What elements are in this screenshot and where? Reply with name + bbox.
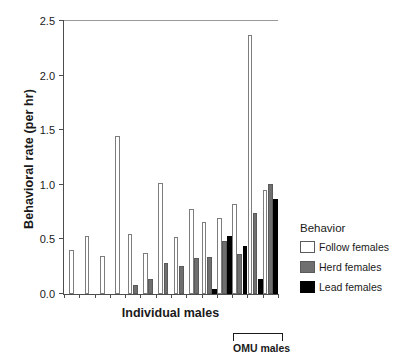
bar-herd-male-14: [268, 184, 273, 294]
bracket-line: [233, 333, 283, 341]
x-axis-tick: [79, 294, 80, 298]
bar-herd-male-13: [253, 213, 258, 294]
legend-item-follow-females[interactable]: Follow females: [300, 241, 400, 253]
x-axis-tick: [217, 294, 218, 298]
bar-follow-male-5: [128, 234, 133, 294]
bar-follow-male-7: [158, 183, 163, 294]
y-axis-tick-label: 2.0: [40, 70, 55, 82]
bar-series-layer: [64, 21, 278, 294]
bar-herd-male-10: [207, 257, 212, 294]
x-axis-tick: [110, 294, 111, 298]
bar-follow-male-2: [85, 236, 90, 294]
bar-follow-male-6: [143, 253, 148, 294]
y-axis-tick-label: 1.0: [40, 179, 55, 191]
bar-herd-male-12: [237, 254, 242, 294]
bar-herd-male-9: [194, 258, 199, 294]
bar-herd-male-7: [164, 263, 169, 294]
x-axis-tick: [186, 294, 187, 298]
gray-square-icon: [300, 261, 315, 273]
bar-lead-male-12: [243, 246, 248, 294]
x-axis-tick: [95, 294, 96, 298]
white-square-icon: [300, 241, 315, 253]
x-axis-tick: [202, 294, 203, 298]
bar-herd-male-11: [222, 241, 227, 295]
x-axis-tick: [263, 294, 264, 298]
legend-item-herd-females[interactable]: Herd females: [300, 261, 400, 273]
x-axis-tick: [64, 294, 65, 298]
bar-follow-male-10: [202, 222, 207, 294]
y-axis-title: Behavioral rate (per hr): [22, 34, 36, 284]
black-square-icon: [300, 281, 315, 293]
legend-label-follow-females: Follow females: [319, 241, 389, 253]
behavioral-rate-bar-chart: Behavioral rate (per hr) 0.00.51.01.52.0…: [0, 0, 403, 364]
legend: Behavior Follow females Herd females Lea…: [300, 222, 400, 301]
legend-item-lead-females[interactable]: Lead females: [300, 281, 400, 293]
legend-label-lead-females: Lead females: [319, 281, 382, 293]
bar-follow-male-12: [232, 204, 237, 294]
x-axis-tick: [125, 294, 126, 298]
x-axis-tick: [232, 294, 233, 298]
bar-follow-male-9: [189, 209, 194, 294]
bar-lead-male-14: [273, 199, 278, 294]
bar-follow-male-1: [69, 250, 74, 294]
y-axis-tick-label: 2.5: [40, 15, 55, 27]
bar-herd-male-8: [179, 266, 184, 294]
x-axis-tick: [171, 294, 172, 298]
omu-males-bracket: OMU males: [233, 330, 283, 354]
bar-follow-male-14: [263, 190, 268, 294]
x-axis-title: Individual males: [63, 306, 278, 320]
bar-herd-male-5: [133, 285, 138, 294]
legend-title: Behavior: [300, 222, 400, 234]
bracket-label: OMU males: [233, 342, 283, 354]
bar-herd-male-6: [148, 279, 153, 294]
x-axis-tick: [278, 294, 279, 298]
y-axis-tick-label: 0.0: [40, 288, 55, 300]
legend-label-herd-females: Herd females: [319, 261, 381, 273]
bar-follow-male-8: [174, 237, 179, 294]
bar-follow-male-3: [100, 256, 105, 294]
bar-follow-male-13: [248, 35, 253, 294]
x-axis-tick: [140, 294, 141, 298]
y-axis-tick-label: 1.5: [40, 124, 55, 136]
x-axis-tick: [247, 294, 248, 298]
x-axis-tick: [156, 294, 157, 298]
plot-area: 0.00.51.01.52.02.5: [63, 20, 278, 295]
bar-follow-male-4: [115, 136, 120, 294]
y-axis-tick-label: 0.5: [40, 233, 55, 245]
bar-lead-male-11: [227, 236, 232, 294]
bar-follow-male-11: [217, 218, 222, 294]
